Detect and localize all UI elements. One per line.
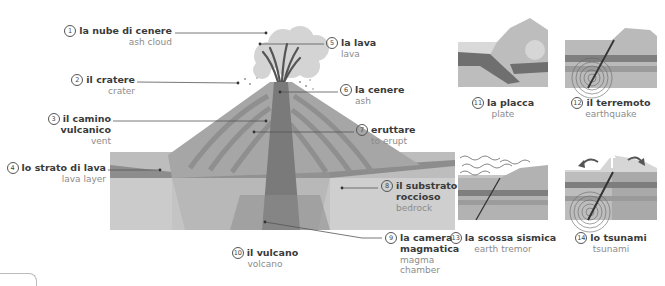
label-english: volcano [210,259,320,269]
label-ash-cloud: 1la nube di cenere ash cloud [40,25,172,47]
tsunami-illustration [565,152,657,232]
label-italian-line2: roccioso [381,192,457,203]
label-crater: 2il cratere crater [40,74,135,96]
page-corner-tab [0,273,37,286]
label-english-line1: magma [385,255,459,265]
label-number: 5 [326,37,338,49]
label-english-line2: chamber [385,265,459,275]
label-lava-layer: 4lo strato di lava lava layer [0,162,106,184]
label-number: 11 [472,97,484,109]
label-number: 12 [571,97,583,109]
label-earthquake: 12il terremoto earthquake [561,97,661,119]
label-english: crater [40,86,135,96]
earth-tremor-illustration [458,156,548,220]
label-english: earth tremor [443,244,563,254]
label-english: plate [453,109,553,119]
label-english: lava [326,49,376,59]
label-english: tsunami [561,244,661,254]
label-italian: il terremoto [586,97,650,108]
label-italian: lo tsunami [590,232,646,243]
label-english: ash cloud [40,37,172,47]
plate-illustration [458,18,548,87]
label-number: 8 [381,180,393,192]
label-number: 2 [71,74,83,86]
label-english: lava layer [0,174,106,184]
label-lava: 5la lava lava [326,37,376,59]
label-italian: il vulcano [247,247,298,258]
label-number: 9 [385,232,397,244]
label-to-erupt: 7eruttare to erupt [356,124,416,146]
label-number: 7 [356,124,368,136]
label-number: 4 [7,162,19,174]
label-italian-line1: il substrato [396,180,457,191]
label-number: 1 [64,25,76,37]
earthquake-illustration [565,28,657,98]
label-english: bedrock [381,203,457,213]
label-bedrock: 8il substrato roccioso bedrock [381,180,457,213]
label-ash: 6la cenere ash [340,84,404,106]
label-italian: lo strato di lava [22,162,106,173]
label-italian: la scossa sismica [465,232,557,243]
label-italian: la cenere [355,84,404,95]
label-volcano-title: 10il vulcano volcano [210,247,320,269]
label-italian-line1: il camino [63,113,111,124]
label-number: 6 [340,84,352,96]
label-number: 13 [450,232,462,244]
label-italian: la lava [341,37,376,48]
label-tsunami: 14lo tsunami tsunami [561,232,661,254]
label-number: 10 [232,247,244,259]
label-italian: la nube di cenere [79,25,172,36]
label-vent: 3il camino vulcanico vent [20,113,111,146]
label-italian: la placca [487,97,534,108]
label-english: ash [340,96,404,106]
label-italian: eruttare [371,124,416,135]
label-plate: 11la placca plate [453,97,553,119]
label-italian-line2: vulcanico [20,125,111,136]
label-english: vent [20,136,111,146]
label-number: 3 [48,113,60,125]
label-earth-tremor: 13la scossa sismica earth tremor [443,232,563,254]
label-english: to erupt [356,136,416,146]
label-english: earthquake [561,109,661,119]
label-number: 14 [575,232,587,244]
label-italian: il cratere [86,74,135,85]
